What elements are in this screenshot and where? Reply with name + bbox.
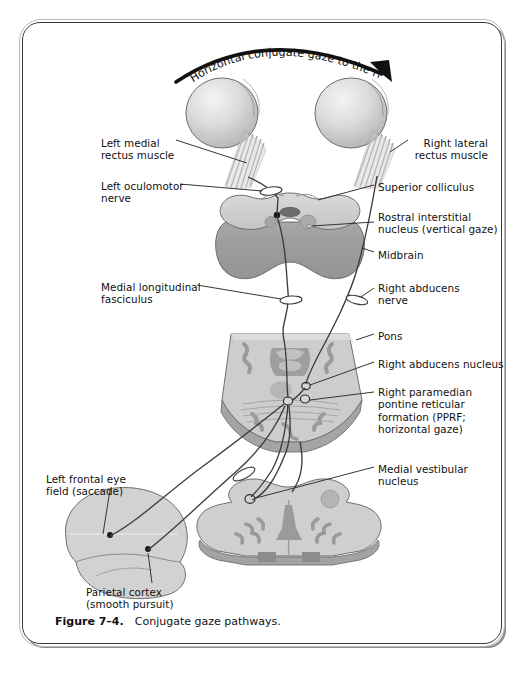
right-eye [315,78,395,189]
svg-text:Horizontal conjugate gaze to t: Horizontal conjugate gaze to the right [0,0,383,85]
figure-caption-text: Conjugate gaze pathways. [135,615,281,628]
label-parietal-cortex: Parietal cortex (smooth pursuit) [86,586,174,611]
label-pons: Pons [378,330,402,342]
left-eye [186,78,266,189]
label-right-pprf: Right paramedian pontine reticular forma… [378,386,472,435]
label-medial-longitudinal-fasciculus: Medial longitudinal fasciculus [101,281,201,306]
label-superior-colliculus: Superior colliculus [378,181,474,193]
label-right-abducens-nerve: Right abducens nerve [378,282,460,307]
pons-section [221,334,362,452]
label-left-frontal-eye-field: Left frontal eye field (saccade) [46,473,126,498]
label-medial-vestibular-nucleus: Medial vestibular nucleus [378,463,468,488]
midbrain-section [216,193,365,279]
medulla-section [197,479,381,565]
figure-caption: Figure 7–4. Conjugate gaze pathways. [55,615,475,628]
label-right-lateral-rectus-muscle: Right lateral rectus muscle [415,137,488,162]
label-left-medial-rectus-muscle: Left medial rectus muscle [101,137,174,162]
figure-number: Figure 7–4. [55,615,131,628]
label-midbrain: Midbrain [378,249,424,261]
label-left-oculomotor-nerve: Left oculomotor nerve [101,180,184,205]
label-right-abducens-nucleus: Right abducens nucleus [378,358,503,370]
label-rostral-interstitial-nucleus: Rostral interstitial nucleus (vertical g… [378,211,498,236]
cerebral-cortex [65,488,187,599]
anatomical-illustration: Horizontal conjugate gaze to the right [0,0,530,681]
